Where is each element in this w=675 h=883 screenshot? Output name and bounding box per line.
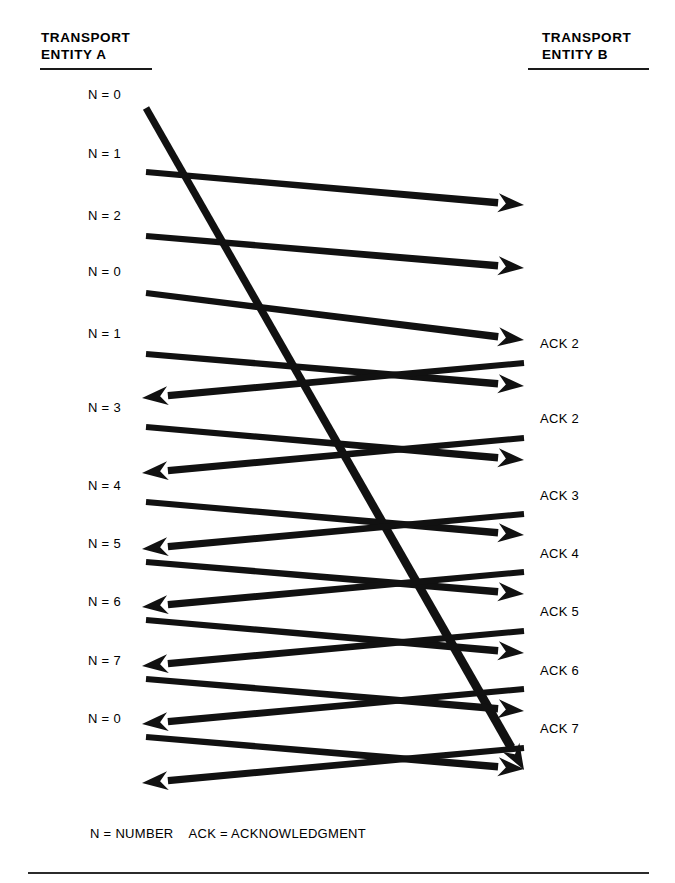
arrow-data-n0-long: [143, 106, 524, 770]
arrow-head: [142, 537, 169, 556]
ack-label-1: ACK 2: [540, 412, 579, 425]
sequence-label-4: N = 1: [88, 327, 121, 340]
footer-rule: [28, 872, 649, 874]
sequence-label-0: N = 0: [88, 88, 121, 101]
sequence-label-7: N = 5: [88, 537, 121, 550]
arrow-head: [497, 256, 524, 275]
arrow-head: [142, 712, 169, 731]
diagram-page: TRANSPORT ENTITY A TRANSPORT ENTITY B N …: [0, 0, 675, 883]
arrow-head: [142, 771, 169, 790]
arrow-canvas: [0, 0, 675, 883]
sequence-label-1: N = 1: [88, 147, 121, 160]
sequence-label-5: N = 3: [88, 401, 121, 414]
ack-label-4: ACK 5: [540, 605, 579, 618]
sequence-label-8: N = 6: [88, 595, 121, 608]
arrow-head: [497, 327, 524, 346]
arrow-head: [497, 582, 524, 601]
arrow-data-n0-retx: [146, 290, 524, 346]
arrow-head: [497, 699, 524, 718]
ack-label-2: ACK 3: [540, 489, 579, 502]
arrow-head: [497, 374, 524, 393]
arrow-head: [497, 523, 524, 542]
arrow-shaft: [146, 290, 499, 340]
legend-text: N = NUMBER ACK = ACKNOWLEDGMENT: [90, 826, 366, 841]
arrow-shaft: [146, 233, 499, 269]
ack-label-6: ACK 7: [540, 722, 579, 735]
arrow-head: [142, 654, 169, 673]
sequence-label-3: N = 0: [88, 265, 121, 278]
arrow-head: [497, 641, 524, 660]
arrow-head: [142, 595, 169, 614]
sequence-label-2: N = 2: [88, 209, 121, 222]
ack-label-0: ACK 2: [540, 337, 579, 350]
arrow-data-n2: [146, 233, 524, 275]
sequence-label-9: N = 7: [88, 654, 121, 667]
sequence-label-10: N = 0: [88, 712, 121, 725]
arrow-head: [497, 193, 524, 212]
ack-label-3: ACK 4: [540, 547, 579, 560]
arrow-head: [142, 386, 169, 405]
arrow-head: [142, 461, 169, 480]
arrow-data-n1-b: [146, 351, 524, 393]
ack-label-5: ACK 6: [540, 664, 579, 677]
sequence-label-6: N = 4: [88, 479, 121, 492]
arrow-head: [497, 448, 524, 467]
